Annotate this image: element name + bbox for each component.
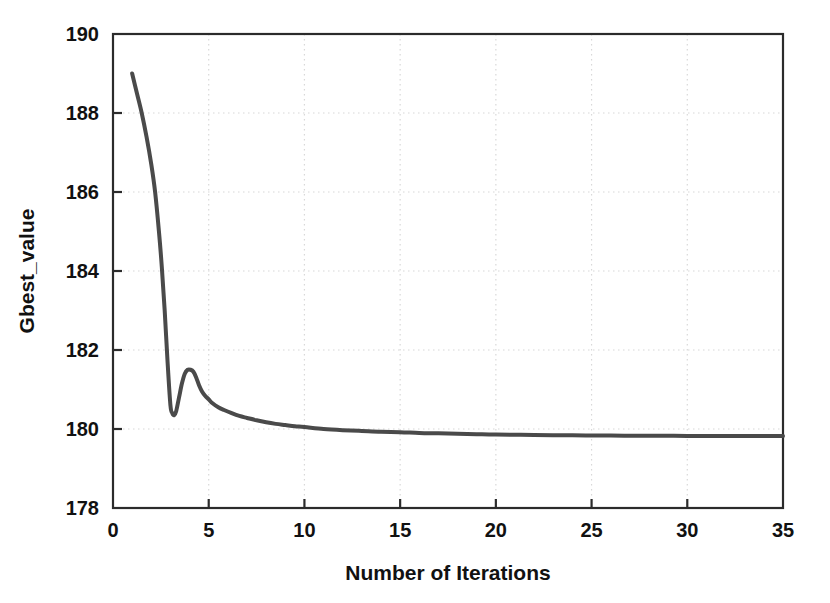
tick-marks xyxy=(113,113,687,508)
y-tick-labels: 178180182184186188190 xyxy=(66,23,100,519)
x-tick-label: 0 xyxy=(107,519,118,541)
y-tick-label: 190 xyxy=(66,23,99,45)
line-chart: 05101520253035 178180182184186188190 Num… xyxy=(0,0,830,603)
chart-figure: 05101520253035 178180182184186188190 Num… xyxy=(0,0,830,603)
x-tick-label: 20 xyxy=(485,519,507,541)
y-tick-label: 184 xyxy=(66,260,100,282)
x-axis-title: Number of Iterations xyxy=(345,561,550,584)
x-tick-labels: 05101520253035 xyxy=(107,519,794,541)
y-tick-label: 188 xyxy=(66,102,99,124)
x-tick-label: 5 xyxy=(203,519,214,541)
y-axis-title: Gbest_value xyxy=(15,209,38,334)
y-tick-label: 182 xyxy=(66,339,99,361)
y-tick-label: 178 xyxy=(66,497,99,519)
y-tick-label: 186 xyxy=(66,181,99,203)
x-tick-label: 25 xyxy=(580,519,602,541)
x-tick-label: 15 xyxy=(389,519,411,541)
x-tick-label: 10 xyxy=(293,519,315,541)
series-line xyxy=(132,74,783,437)
data-series xyxy=(132,74,783,437)
y-tick-label: 180 xyxy=(66,418,99,440)
x-tick-label: 30 xyxy=(676,519,698,541)
x-tick-label: 35 xyxy=(772,519,794,541)
